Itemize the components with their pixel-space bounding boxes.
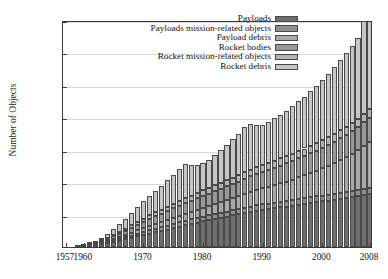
bar-segment xyxy=(177,216,182,223)
legend-color-swatch xyxy=(275,16,298,23)
bar-segment xyxy=(171,228,176,247)
table-row xyxy=(159,186,164,247)
y-tick-mark xyxy=(63,54,67,55)
bar-segment xyxy=(284,111,289,157)
table-row xyxy=(147,196,152,247)
bar-segment xyxy=(159,227,164,231)
bar-segment xyxy=(206,206,211,215)
bar-segment xyxy=(206,194,211,206)
bar-segment xyxy=(302,156,307,175)
bar-segment xyxy=(183,225,188,247)
bar-segment xyxy=(278,166,283,184)
table-row xyxy=(266,122,271,247)
bar-segment xyxy=(308,203,313,247)
bar-segment xyxy=(212,219,217,247)
table-row xyxy=(350,46,355,247)
bar-segment xyxy=(189,196,194,201)
table-row xyxy=(314,86,319,247)
table-row xyxy=(129,213,134,247)
bar-segment xyxy=(326,201,331,247)
bar-segment xyxy=(171,218,176,224)
x-tick-mark xyxy=(322,243,323,247)
table-row xyxy=(242,127,247,247)
bar-segment xyxy=(367,21,372,109)
bar-segment xyxy=(326,166,331,195)
table-row xyxy=(141,201,146,247)
bar-segment xyxy=(129,233,134,236)
bar-segment xyxy=(206,220,211,247)
x-tick-label: 2008 xyxy=(360,252,379,262)
bar-segment xyxy=(260,125,265,165)
bar-segment xyxy=(332,67,337,133)
bar-segment xyxy=(159,210,164,214)
bar-segment xyxy=(254,125,259,167)
bar-segment xyxy=(189,219,194,223)
bar-segment xyxy=(129,238,134,247)
table-row xyxy=(230,139,235,247)
chart-legend: PayloadsPayloads mission-related objects… xyxy=(70,14,298,72)
x-tick-label: 1970 xyxy=(133,252,152,262)
bar-segment xyxy=(135,236,140,247)
bar-segment xyxy=(296,151,301,158)
table-row xyxy=(183,164,188,247)
table-row xyxy=(290,106,295,247)
x-tick-mark xyxy=(263,243,264,247)
bar-segment xyxy=(177,201,182,206)
bar-segment xyxy=(105,234,110,238)
bar-segment xyxy=(296,199,301,205)
table-row xyxy=(361,21,366,247)
bar-segment xyxy=(272,161,277,168)
bar-segment xyxy=(111,242,116,247)
bar-segment xyxy=(117,241,122,247)
bar-segment xyxy=(248,212,253,247)
table-row xyxy=(367,21,372,247)
bar-segment xyxy=(350,191,355,197)
bar-segment xyxy=(350,131,355,154)
bar-segment xyxy=(195,165,200,193)
bar-segment xyxy=(123,229,128,231)
bar-segment xyxy=(236,209,241,214)
bar-segment xyxy=(75,245,80,247)
y-tick-mark xyxy=(63,22,67,23)
bar-segment xyxy=(159,186,164,210)
bar-segment xyxy=(338,60,343,130)
bar-segment xyxy=(278,207,283,247)
bar-segment xyxy=(320,168,325,195)
table-row xyxy=(218,150,223,247)
legend-color-swatch xyxy=(275,35,298,42)
table-row xyxy=(224,145,229,247)
bar-segment xyxy=(302,204,307,247)
bar-segment xyxy=(266,163,271,170)
y-tick-mark xyxy=(63,152,67,153)
bar-segment xyxy=(123,237,128,239)
bar-segment xyxy=(224,217,229,247)
table-row xyxy=(278,115,283,247)
x-tick-mark xyxy=(203,243,204,247)
legend-item-label: Rocket debris xyxy=(220,62,271,72)
bar-segment xyxy=(99,244,104,247)
bar-segment xyxy=(111,236,116,239)
bar-segment xyxy=(326,195,331,201)
bar-segment xyxy=(332,134,337,142)
bar-segment xyxy=(153,216,158,224)
bar-segment xyxy=(350,123,355,131)
bar-segment xyxy=(248,124,253,170)
bar-segment xyxy=(195,218,200,223)
bar-segment xyxy=(171,175,176,204)
bar-segment xyxy=(290,200,295,206)
legend-item[interactable]: Rocket debris xyxy=(70,62,298,72)
table-row xyxy=(338,60,343,247)
bar-segment xyxy=(177,169,182,201)
bar-segment xyxy=(153,212,158,216)
bar-segment xyxy=(344,127,349,135)
bar-segment xyxy=(296,177,301,199)
table-row xyxy=(212,155,217,247)
bar-segment xyxy=(117,234,122,237)
x-tick-mark xyxy=(66,243,67,247)
bar-segment xyxy=(248,207,253,212)
bar-segment xyxy=(355,127,360,150)
bar-segment xyxy=(314,86,319,143)
bar-segment xyxy=(177,227,182,247)
bar-segment xyxy=(129,236,134,238)
table-row xyxy=(206,160,211,247)
